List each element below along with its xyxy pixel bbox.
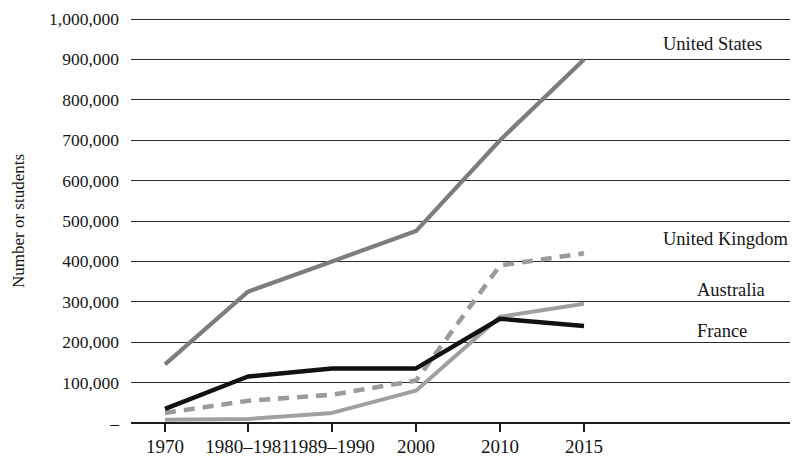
x-axis-tick-label: 1980–1981 [205, 436, 291, 457]
series-line-united-kingdom [165, 253, 584, 413]
y-axis-tick-labels: 1,000,000900,000800,000700,000600,000500… [49, 9, 119, 433]
gridlines [131, 19, 790, 423]
series-line-france [165, 319, 584, 409]
line-chart: 1,000,000900,000800,000700,000600,000500… [0, 0, 802, 458]
y-axis-tick-label: 500,000 [62, 211, 119, 231]
y-axis-tick-label: 1,000,000 [49, 9, 119, 29]
data-series [165, 59, 584, 419]
chart-canvas: 1,000,000900,000800,000700,000600,000500… [0, 0, 802, 458]
series-labels: United StatesUnited KingdomAustraliaFran… [663, 34, 788, 341]
x-axis-ticks [165, 423, 584, 432]
y-axis-tick-label: 400,000 [62, 251, 119, 271]
y-axis-tick-label: 200,000 [62, 332, 119, 352]
y-axis-tick-label: 600,000 [62, 171, 119, 191]
y-axis-tick-label: 900,000 [62, 49, 119, 69]
x-axis-tick-label: 1970 [146, 436, 184, 457]
y-axis-tick-label: 100,000 [62, 373, 119, 393]
y-axis-tick-label: 800,000 [62, 90, 119, 110]
x-axis-tick-label: 2010 [481, 436, 519, 457]
x-axis-tick-label: 2000 [397, 436, 435, 457]
series-label-united-kingdom: United Kingdom [663, 229, 788, 249]
x-axis-tick-labels: 19701980–19811989–1990200020102015 [146, 436, 603, 457]
y-axis-tick-label: – [109, 413, 119, 433]
y-axis-title: Number or students [9, 154, 28, 288]
x-axis-tick-label: 2015 [565, 436, 603, 457]
x-axis-tick-label: 1989–1990 [289, 436, 375, 457]
y-axis-tick-label: 700,000 [62, 130, 119, 150]
series-label-france: France [697, 321, 747, 341]
series-label-united-states: United States [663, 34, 762, 54]
y-axis-tick-label: 300,000 [62, 292, 119, 312]
series-label-australia: Australia [697, 280, 765, 300]
